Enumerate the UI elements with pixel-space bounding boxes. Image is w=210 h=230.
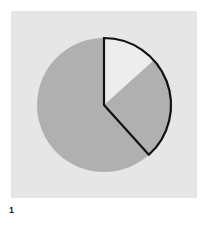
figure-caption: 1 [9, 204, 29, 218]
plot-panel [11, 11, 197, 198]
pie-chart-svg [11, 11, 197, 198]
figure-root: 1 [0, 0, 210, 230]
